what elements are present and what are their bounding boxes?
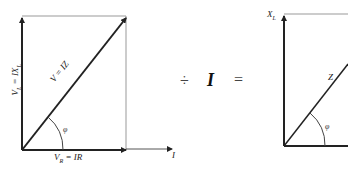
v-hypotenuse-arrow [22,18,126,150]
divide-symbol: ÷ [180,72,189,90]
divisor-i: I [207,70,214,91]
angle-arc [48,117,63,150]
impedance-triangle [284,14,348,146]
current-axis-label: I [172,150,175,160]
angle-arc-right [310,113,325,146]
angle-label: φ [63,125,67,134]
z-hypotenuse [284,64,348,146]
equals-symbol: = [234,71,243,89]
z-label: Z [328,72,333,82]
angle-label-right: φ [325,122,329,131]
vl-label: VL = IXL [10,58,22,102]
voltage-phasor-triangle [22,16,172,150]
xl-label: XL [267,9,276,21]
phasor-diagram [0,0,348,175]
vr-label: VR = IR [54,152,82,164]
